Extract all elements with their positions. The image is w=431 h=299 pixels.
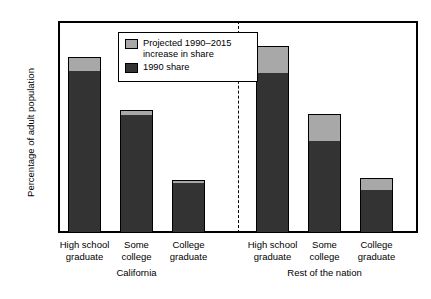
bar-segment-projected (309, 115, 340, 143)
legend-label-projected-line2: increase in share (143, 49, 231, 60)
bar-segment-1990 (361, 190, 392, 232)
bar-segment-1990 (121, 115, 152, 232)
legend-label-projected-line1: Projected 1990–2015 (143, 38, 231, 49)
bar-california-college-graduate[interactable] (172, 180, 205, 233)
chart-figure: Percentage of adult population 100 80 60… (0, 0, 431, 299)
x-category-line2: graduate (337, 251, 417, 263)
x-category-line1: College (149, 239, 229, 251)
bar-california-some-college[interactable] (120, 110, 153, 233)
y-axis-label: Percentage of adult population (25, 43, 36, 223)
dark-swatch-icon (125, 63, 138, 73)
x-category-label-2: College graduate (149, 239, 229, 262)
x-category-line2: graduate (149, 251, 229, 263)
chart-legend: Projected 1990–2015 increase in share 19… (118, 32, 258, 82)
bar-segment-1990 (173, 183, 204, 232)
x-category-line1: College (337, 239, 417, 251)
bar-rest-of-nation-some-college[interactable] (308, 114, 341, 233)
bar-california-high-school-graduate[interactable] (68, 57, 101, 233)
legend-item-1990-share: 1990 share (125, 62, 252, 73)
bar-segment-1990 (257, 73, 288, 232)
x-category-label-5: College graduate (337, 239, 417, 262)
group-label-california: California (67, 267, 207, 278)
bar-segment-1990 (309, 141, 340, 232)
bar-segment-projected (257, 47, 288, 75)
bar-rest-of-nation-high-school-graduate[interactable] (256, 46, 289, 233)
legend-label-1990-share: 1990 share (143, 62, 190, 73)
group-label-rest-of-nation: Rest of the nation (255, 267, 395, 278)
bar-rest-of-nation-college-graduate[interactable] (360, 178, 393, 233)
legend-item-projected: Projected 1990–2015 increase in share (125, 38, 252, 60)
gray-swatch-icon (125, 39, 138, 49)
bar-segment-1990 (69, 71, 100, 232)
